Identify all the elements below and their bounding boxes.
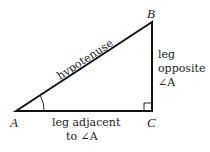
adjacent-label-line1: leg adjacent xyxy=(52,116,121,129)
vertex-b-label: B xyxy=(147,6,155,21)
hypotenuse-label: hypotenuse xyxy=(55,37,116,83)
right-angle-marker xyxy=(144,103,152,111)
right-triangle-diagram: A B C hypotenuse leg opposite ∠A leg adj… xyxy=(0,0,210,152)
opposite-label-line3: ∠A xyxy=(158,76,176,89)
adjacent-label-line2: to ∠A xyxy=(66,130,99,143)
opposite-label-line1: leg xyxy=(158,48,175,61)
vertex-c-label: C xyxy=(147,115,156,130)
vertex-a-label: A xyxy=(9,115,18,130)
angle-a-arc xyxy=(41,96,45,111)
opposite-label-line2: opposite xyxy=(158,62,205,75)
